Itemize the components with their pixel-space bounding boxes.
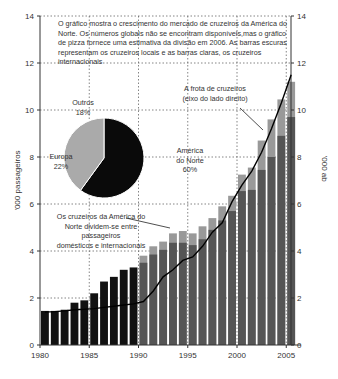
x-tick-label: 1995 — [179, 351, 197, 360]
y-tick-label-left: 8 — [30, 153, 35, 162]
intro-line-1: O gráfico mostra o crescimento do mercad… — [58, 19, 298, 29]
bar-local — [169, 243, 177, 345]
pie-label-america-value: 60% — [170, 165, 210, 175]
fleet-annotation: A frota de cruzeiros (eixo do lado direi… — [180, 84, 250, 103]
x-tick-label: 2000 — [228, 351, 246, 360]
bar-local — [159, 250, 167, 345]
bar-local — [208, 230, 216, 345]
intro-line-4: representam os cruzeiros locais e as bar… — [58, 48, 298, 67]
y-tick-label-right: 12 — [297, 59, 306, 68]
y-tick-label-right: 6 — [297, 200, 302, 209]
bar-local — [61, 310, 69, 345]
bar-local — [90, 293, 98, 345]
split-line-1: Os cruzeiros da América do — [46, 212, 156, 222]
pie-label-america-name-1: América — [170, 146, 210, 156]
bar-local — [277, 136, 285, 345]
bar-local — [51, 311, 59, 345]
bar-local — [189, 245, 197, 345]
y-axis-label-left: '000 passageiros — [13, 150, 22, 210]
y-tick-label-left: 10 — [25, 106, 34, 115]
y-tick-label-right: 8 — [297, 153, 302, 162]
pie-label-america-name-2: do Norte — [170, 156, 210, 166]
y-tick-label-left: 12 — [25, 59, 34, 68]
y-axis-label-right: '000 ab — [320, 156, 329, 183]
pie-label-europa-value: 22% — [44, 162, 78, 172]
split-line-3: domésticos e internacionais — [46, 241, 156, 251]
bar-local — [149, 255, 157, 345]
bar-local — [80, 300, 88, 345]
bar-local — [248, 190, 256, 345]
intro-line-3: de pizza fornece uma estimativa da divis… — [58, 38, 298, 48]
bar-local — [179, 243, 187, 345]
y-tick-label-right: 2 — [297, 294, 302, 303]
bar-local — [268, 157, 276, 345]
y-tick-label-right: 0 — [297, 341, 302, 350]
x-tick-label: 2005 — [277, 351, 295, 360]
y-tick-label-left: 2 — [30, 294, 35, 303]
y-tick-label-right: 14 — [297, 12, 306, 21]
pie-label-america: América do Norte 60% — [170, 146, 210, 175]
y-tick-label-right: 10 — [297, 106, 306, 115]
intro-line-2: Norte. Os números globais não se encontr… — [58, 29, 298, 39]
pie-label-europa: Europa 22% — [44, 152, 78, 171]
bar-local — [228, 211, 236, 345]
fleet-line-1: A frota de cruzeiros — [180, 84, 250, 94]
y-tick-label-left: 6 — [30, 200, 35, 209]
bar-local — [41, 311, 49, 345]
split-annotation: Os cruzeiros da América do Norte dividem… — [46, 212, 156, 250]
pie-label-outros: Outros 18% — [66, 98, 100, 117]
bar-local — [110, 277, 118, 345]
fleet-line-2: (eixo do lado direito) — [180, 94, 250, 104]
bar-local — [130, 267, 138, 345]
bar-local — [199, 239, 207, 345]
intro-annotation: O gráfico mostra o crescimento do mercad… — [58, 19, 298, 67]
pie-label-outros-name: Outros — [66, 98, 100, 108]
bar-local — [238, 191, 246, 345]
bar-local — [100, 282, 108, 345]
x-tick-label: 1990 — [130, 351, 148, 360]
y-tick-label-left: 14 — [25, 12, 34, 21]
y-tick-label-left: 4 — [30, 247, 35, 256]
x-tick-label: 1985 — [80, 351, 98, 360]
pie-label-outros-value: 18% — [66, 108, 100, 118]
bar-local — [218, 220, 226, 345]
pie-label-europa-name: Europa — [44, 152, 78, 162]
split-line-2: Norte dividem-se entre passageiros — [46, 222, 156, 241]
bar-local — [140, 263, 148, 345]
bar-local — [120, 270, 128, 345]
y-tick-label-right: 4 — [297, 247, 302, 256]
fleet-arrow — [240, 108, 263, 130]
y-tick-label-left: 0 — [30, 341, 35, 350]
bar-local — [258, 170, 266, 345]
x-tick-label: 1980 — [31, 351, 49, 360]
